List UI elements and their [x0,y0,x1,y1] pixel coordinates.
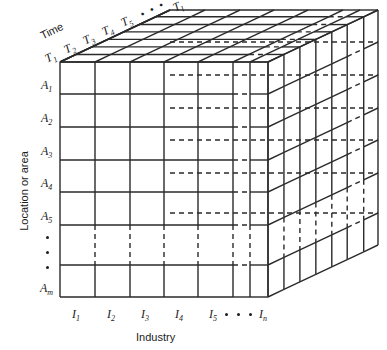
y-tick-A3: A3 [41,144,52,160]
x-tick-I3: I3 [141,307,149,323]
x-tick-In: In [259,307,267,323]
y-axis-ellipsis-dot-1 [46,236,49,239]
y-axis-title: Location or area [18,141,30,241]
y-tick-A2: A2 [41,111,52,127]
x-tick-I5: I5 [209,307,217,323]
x-axis-ellipsis-dot-2 [237,313,240,316]
x-tick-I2: I2 [107,307,115,323]
diagram-canvas: T1 T2 T3 T4 T5 • • • Tl Time A1 A2 A3 A4… [0,0,387,350]
y-tick-A4: A4 [41,176,52,192]
x-axis-ellipsis-dot-1 [225,313,228,316]
x-axis-title: Industry [136,331,175,343]
cube-right-face [268,10,378,297]
x-tick-I4: I4 [175,307,183,323]
y-axis-ellipsis-dot-2 [46,251,49,254]
x-tick-I1: I1 [72,307,80,323]
cube-front-face [60,42,378,297]
x-axis-ellipsis-dot-3 [249,313,252,316]
y-axis-ellipsis-dot-3 [46,266,49,269]
y-tick-A5: A5 [41,209,52,225]
y-tick-A1: A1 [41,78,52,94]
data-cube-svg [0,0,387,350]
y-tick-Am: Am [40,281,53,297]
